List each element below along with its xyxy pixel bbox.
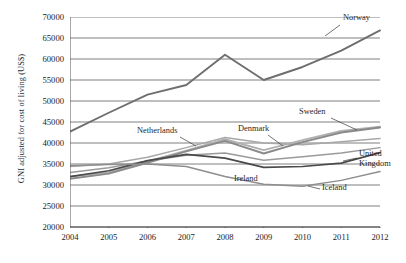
y-tick-label: 65000 (18, 33, 64, 43)
annotation-leader (308, 186, 320, 189)
x-tick-label: 2012 (371, 232, 388, 242)
x-tick-label: 2011 (333, 232, 350, 242)
y-tick-label: 45000 (18, 117, 64, 127)
x-axis-tick-labels: 200420052006200720082009201020112012 (0, 232, 406, 250)
y-tick-label: 20000 (18, 222, 64, 232)
chart-figure: GNI adjusted for cost of living (US$) 20… (0, 0, 406, 263)
x-tick-label: 2004 (61, 232, 78, 242)
annotation-sweden: Sweden (299, 108, 326, 117)
y-tick-label: 60000 (18, 54, 64, 64)
chart-canvas (70, 17, 381, 228)
x-tick-label: 2006 (139, 232, 156, 242)
y-tick-label: 25000 (18, 201, 64, 211)
y-tick-label: 40000 (18, 138, 64, 148)
annotation-netherlands: Netherlands (137, 127, 177, 136)
y-tick-label: 70000 (18, 12, 64, 22)
y-tick-label: 55000 (18, 75, 64, 85)
plot-area (70, 17, 380, 227)
series-line-norway (70, 30, 380, 131)
x-tick-label: 2007 (178, 232, 195, 242)
annotation-denmark: Denmark (238, 125, 269, 134)
annotation-leader (331, 118, 357, 130)
x-tick-label: 2009 (255, 232, 272, 242)
annotation-norway: Norway (343, 14, 370, 23)
y-tick-label: 30000 (18, 180, 64, 190)
annotation-leader (180, 137, 196, 146)
y-tick-label: 50000 (18, 96, 64, 106)
annotation-leader (268, 135, 283, 146)
x-tick-label: 2010 (294, 232, 311, 242)
annotation-leader (325, 25, 340, 36)
annotation-united-kingdom-2: Kingdom (359, 160, 391, 169)
x-tick-label: 2005 (100, 232, 117, 242)
annotation-united-kingdom: United (359, 150, 382, 159)
y-tick-label: 35000 (18, 159, 64, 169)
annotation-ireland: Ireland (234, 175, 258, 184)
x-tick-label: 2008 (216, 232, 233, 242)
annotation-iceland: Iceland (322, 184, 347, 193)
y-axis-tick-labels: 2000025000300003500040000450005000055000… (16, 0, 64, 263)
